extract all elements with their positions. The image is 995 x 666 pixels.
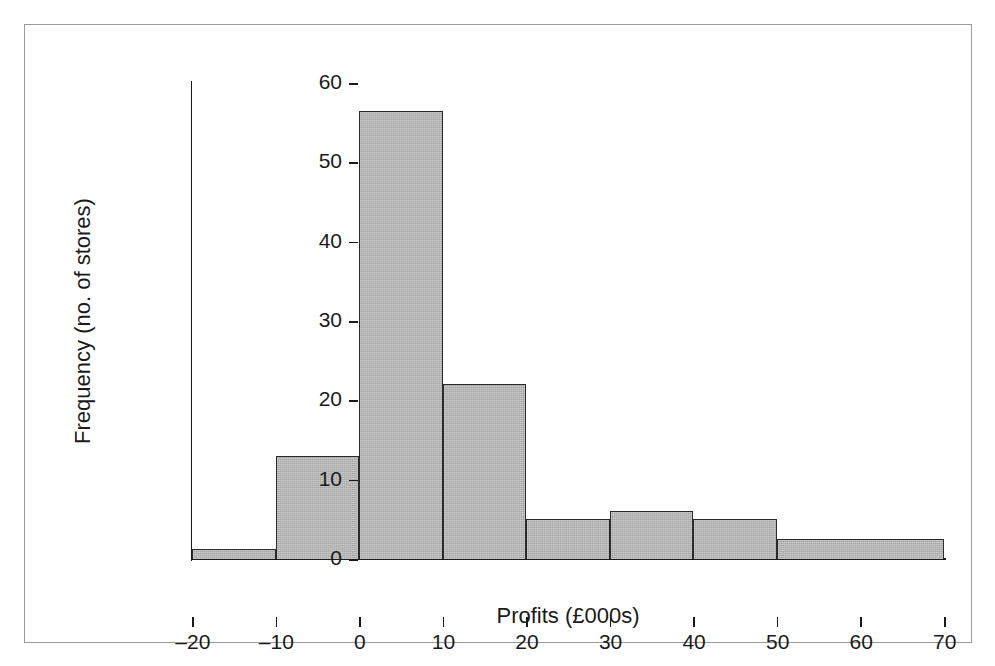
histogram-bar [443, 384, 527, 559]
histogram-figure: 0102030405060–20–10010203040506070 Profi… [0, 0, 995, 666]
x-axis-tick-label: 0 [354, 631, 366, 653]
histogram-bar [526, 519, 610, 559]
x-axis-tick: 70 [944, 617, 946, 627]
y-axis-tick-label: 60 [319, 71, 342, 93]
x-axis-tick-label: 20 [515, 631, 538, 653]
y-axis-tick-label: 20 [319, 388, 342, 410]
x-axis-tick-label: 40 [682, 631, 705, 653]
x-axis-tick-label: –20 [175, 631, 210, 653]
x-axis-title: Profits (£000s) [192, 603, 944, 629]
histogram-bar [276, 456, 360, 559]
histogram-bar [777, 539, 944, 559]
x-axis-tick-label: 50 [766, 631, 789, 653]
y-axis-tick-label: 50 [319, 150, 342, 172]
x-axis-tick-label: 60 [850, 631, 873, 653]
y-axis-title: Frequency (no. of stores) [70, 82, 96, 560]
plot-area: 0102030405060–20–10010203040506070 [192, 83, 944, 559]
y-axis-tick-label: 0 [330, 547, 342, 569]
y-axis-tick-label: 10 [319, 468, 342, 490]
histogram-bar [610, 511, 694, 559]
y-axis-tick: 40 [349, 242, 358, 244]
x-axis-tick-label: 70 [933, 631, 956, 653]
figure-frame: 0102030405060–20–10010203040506070 Profi… [24, 24, 972, 643]
histogram-bar [359, 111, 443, 559]
x-axis-tick-label: 30 [599, 631, 622, 653]
y-axis-tick: 30 [349, 321, 358, 323]
x-axis-tick-label: –10 [259, 631, 294, 653]
y-axis-tick: 20 [349, 400, 358, 402]
y-axis-tick: 10 [349, 480, 358, 482]
histogram-bar [192, 549, 276, 559]
y-axis-tick: 0 [349, 559, 358, 561]
y-axis-tick: 60 [349, 83, 358, 85]
histogram-bar [693, 519, 777, 559]
x-axis-tick-label: 10 [432, 631, 455, 653]
y-axis-tick-label: 40 [319, 230, 342, 252]
y-axis-tick: 50 [349, 162, 358, 164]
y-axis-tick-label: 30 [319, 309, 342, 331]
